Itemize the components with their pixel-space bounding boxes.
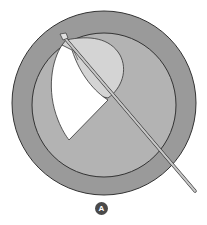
panel-label-badge: A: [95, 202, 108, 215]
capsulorhexis-diagram: [0, 0, 207, 225]
